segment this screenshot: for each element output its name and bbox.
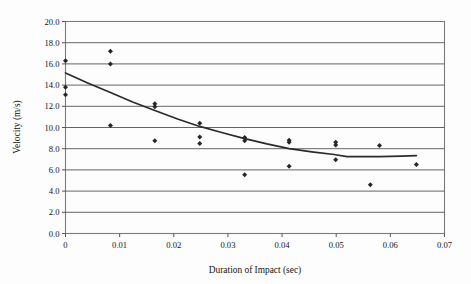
data-point-marker	[63, 92, 68, 97]
y-tick-label: 10.0	[44, 123, 59, 133]
x-tick-label: 0.06	[383, 240, 399, 250]
velocity-vs-duration-scatter-chart: 0.02.04.06.08.010.012.014.016.018.020.0 …	[0, 0, 471, 284]
data-point-marker	[197, 135, 202, 140]
x-tick-label: 0.02	[166, 240, 181, 250]
x-tick-label: 0.05	[329, 240, 344, 250]
data-point-marker	[152, 104, 157, 109]
horizontal-gridlines	[66, 43, 445, 213]
y-tick-label: 2.0	[49, 207, 60, 217]
y-tick-label: 6.0	[49, 165, 60, 175]
data-point-marker	[242, 172, 247, 177]
y-axis-tick-labels: 0.02.04.06.08.010.012.014.016.018.020.0	[44, 17, 59, 239]
data-point-marker	[414, 162, 419, 167]
x-tick-label: 0.07	[437, 240, 453, 250]
y-tick-label: 18.0	[44, 38, 59, 48]
y-tick-label: 8.0	[49, 144, 60, 154]
x-tick-label: 0.03	[220, 240, 235, 250]
data-point-marker	[197, 141, 202, 146]
data-point-marker	[63, 58, 68, 63]
data-point-marker	[368, 182, 373, 187]
y-tick-label: 14.0	[44, 80, 59, 90]
data-point-marker	[333, 157, 338, 162]
data-point-marker	[152, 138, 157, 143]
y-tick-label: 12.0	[44, 101, 59, 111]
y-tick-label: 16.0	[44, 59, 59, 69]
data-point-marker	[333, 142, 338, 147]
x-axis-tick-labels: 00.010.020.030.040.050.060.07	[63, 240, 452, 250]
chart-figure: 0.02.04.06.08.010.012.014.016.018.020.0 …	[0, 0, 471, 284]
data-point-marker	[108, 49, 113, 54]
y-tick-label: 20.0	[44, 17, 59, 27]
data-point-marker	[108, 61, 113, 66]
data-point-marker	[287, 164, 292, 169]
x-tick-label: 0.01	[112, 240, 127, 250]
x-axis-title: Duration of Impact (sec)	[209, 265, 301, 276]
data-point-marker	[377, 143, 382, 148]
y-axis-title: Velocity (m/s)	[12, 100, 23, 153]
x-tick-label: 0	[63, 240, 67, 250]
y-tick-label: 0.0	[49, 229, 60, 239]
x-tick-label: 0.04	[275, 240, 291, 250]
data-point-markers	[63, 49, 419, 188]
y-tick-label: 4.0	[49, 186, 60, 196]
